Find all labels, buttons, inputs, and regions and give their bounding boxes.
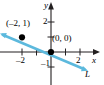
- point-a-label: (–2, 1): [6, 19, 30, 28]
- line-L-label: L: [85, 70, 90, 79]
- y-axis-label: y: [44, 1, 48, 10]
- x-axis-label: x: [92, 56, 96, 65]
- y-axis-arrowhead: [48, 2, 54, 9]
- y-tick-label-minus-1: –1: [41, 59, 50, 68]
- x-tick-label-minus-2: –2: [16, 56, 25, 65]
- graph-figure: y x 2 –1 –2 2 (–2, 1) (0, 0) L: [0, 0, 104, 85]
- y-tick-label-2: 2: [43, 17, 48, 26]
- point-a-dot: [19, 34, 25, 40]
- point-origin-dot: [48, 49, 54, 55]
- x-tick-label-2: 2: [76, 56, 81, 65]
- point-origin-label: (0, 0): [52, 34, 72, 43]
